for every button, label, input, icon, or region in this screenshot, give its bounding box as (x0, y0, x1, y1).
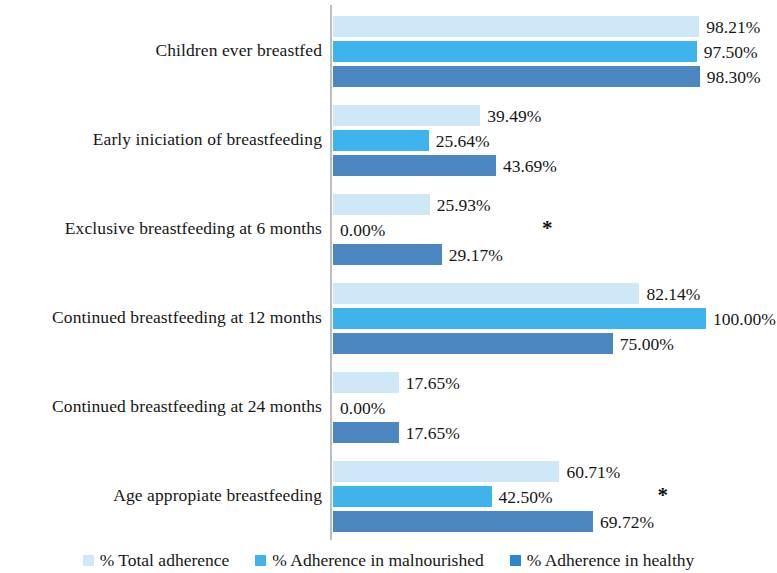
bar-row: 25.93% (333, 194, 777, 215)
plot-area: Children ever breastfed98.21%97.50%98.30… (0, 0, 777, 545)
bar-row: 0.00%* (333, 219, 777, 240)
bar-row: 98.30% (333, 66, 777, 87)
bar-row: 42.50%* (333, 486, 777, 507)
bar-group: 98.21%97.50%98.30% (333, 16, 777, 91)
bar-row: 69.72% (333, 511, 777, 532)
bar-row: 39.49% (333, 105, 777, 126)
bar (333, 333, 613, 354)
bar-row: 29.17% (333, 244, 777, 265)
bar (333, 244, 442, 265)
bar-value-label: 97.50% (697, 41, 758, 62)
bar-value-label: 17.65% (399, 422, 460, 443)
bar (333, 16, 699, 37)
category-group: Age appropiate breastfeeding60.71%42.50%… (0, 450, 777, 539)
category-label: Continued breastfeeding at 12 months (52, 306, 322, 327)
bar-value-label: 69.72% (593, 511, 654, 532)
bar (333, 372, 399, 393)
bar (333, 105, 480, 126)
significance-marker: * (542, 217, 553, 238)
bar-row: 75.00% (333, 333, 777, 354)
bar (333, 486, 492, 507)
bar (333, 308, 706, 329)
bar-value-label: 82.14% (639, 283, 700, 304)
category-group: Early iniciation of breastfeeding39.49%2… (0, 94, 777, 183)
bar-row: 17.65% (333, 372, 777, 393)
bar-value-label: 98.21% (699, 16, 760, 37)
bar (333, 41, 697, 62)
legend-swatch-icon (510, 555, 521, 566)
legend-swatch-icon (255, 555, 266, 566)
bar-group: 60.71%42.50%*69.72% (333, 461, 777, 536)
bar (333, 461, 559, 482)
bar-row: 25.64% (333, 130, 777, 151)
bar-value-label: 25.93% (430, 194, 491, 215)
bar-value-label: 42.50% (492, 486, 553, 507)
category-group: Continued breastfeeding at 24 months17.6… (0, 361, 777, 450)
category-group: Continued breastfeeding at 12 months82.1… (0, 272, 777, 361)
bar (333, 283, 639, 304)
bar-row: 43.69% (333, 155, 777, 176)
category-group: Exclusive breastfeeding at 6 months25.93… (0, 183, 777, 272)
bar-value-label: 29.17% (442, 244, 503, 265)
bar-group: 17.65%0.00%17.65% (333, 372, 777, 447)
bar-value-label: 100.00% (706, 308, 776, 329)
bar-row: 17.65% (333, 422, 777, 443)
bar-row: 98.21% (333, 16, 777, 37)
category-label: Continued breastfeeding at 24 months (52, 395, 322, 416)
bar (333, 155, 496, 176)
bar-value-label: 43.69% (496, 155, 557, 176)
legend-label: % Total adherence (100, 550, 230, 571)
category-group: Children ever breastfed98.21%97.50%98.30… (0, 5, 777, 94)
bar (333, 511, 593, 532)
bar-row: 97.50% (333, 41, 777, 62)
significance-marker: * (658, 484, 669, 505)
legend-label: % Adherence in healthy (527, 550, 695, 571)
bar-value-label: 17.65% (399, 372, 460, 393)
chart-legend: % Total adherence% Adherence in malnouri… (0, 548, 777, 573)
bar-value-label: 0.00% (333, 397, 385, 418)
category-label: Age appropiate breastfeeding (113, 484, 322, 505)
bar-value-label: 60.71% (559, 461, 620, 482)
bar-chart: Children ever breastfed98.21%97.50%98.30… (0, 0, 777, 573)
legend-label: % Adherence in malnourished (272, 550, 483, 571)
bar (333, 130, 429, 151)
category-label: Early iniciation of breastfeeding (93, 128, 322, 149)
bar-value-label: 39.49% (480, 105, 541, 126)
bar-value-label: 75.00% (613, 333, 674, 354)
bar-row: 60.71% (333, 461, 777, 482)
bar-value-label: 98.30% (700, 66, 761, 87)
category-label: Exclusive breastfeeding at 6 months (65, 217, 322, 238)
bar-value-label: 25.64% (429, 130, 490, 151)
bar-group: 25.93%0.00%*29.17% (333, 194, 777, 269)
legend-item[interactable]: % Adherence in healthy (510, 550, 695, 571)
bar-row: 100.00% (333, 308, 777, 329)
legend-swatch-icon (83, 555, 94, 566)
bar-value-label: 0.00% (333, 219, 385, 240)
bar (333, 422, 399, 443)
bar-group: 39.49%25.64%43.69% (333, 105, 777, 180)
bar (333, 194, 430, 215)
legend-item[interactable]: % Adherence in malnourished (255, 550, 483, 571)
bar-group: 82.14%100.00%75.00% (333, 283, 777, 358)
bar (333, 66, 700, 87)
legend-item[interactable]: % Total adherence (83, 550, 230, 571)
bar-row: 0.00% (333, 397, 777, 418)
bar-row: 82.14% (333, 283, 777, 304)
category-label: Children ever breastfed (155, 39, 322, 60)
